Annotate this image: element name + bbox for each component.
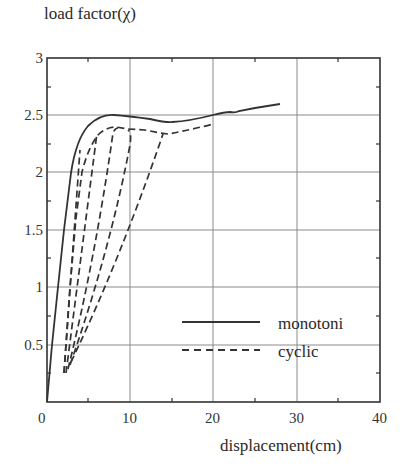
svg-text:10: 10 — [122, 410, 137, 426]
svg-text:1: 1 — [36, 279, 44, 295]
svg-text:0.5: 0.5 — [24, 337, 43, 353]
legend-label-cyclic: cyclic — [278, 342, 319, 361]
svg-text:40: 40 — [372, 410, 387, 426]
x-tick-labels: 0 10 20 30 40 — [38, 410, 387, 426]
legend-label-monotoni: monotoni — [278, 314, 343, 333]
series-cyclic — [64, 124, 213, 373]
y-tick-labels: 3 2.5 2 1.5 1 0.5 — [24, 50, 43, 353]
svg-text:2: 2 — [36, 164, 44, 180]
svg-text:0: 0 — [38, 410, 46, 426]
chart-plot: 0 10 20 30 40 3 2.5 2 1.5 1 0.5 monotoni… — [0, 0, 405, 471]
svg-text:3: 3 — [36, 50, 44, 66]
svg-text:2.5: 2.5 — [24, 107, 43, 123]
svg-text:30: 30 — [289, 410, 304, 426]
grid — [47, 58, 380, 402]
svg-text:1.5: 1.5 — [24, 222, 43, 238]
legend: monotoni cyclic — [182, 314, 343, 361]
svg-text:20: 20 — [205, 410, 220, 426]
